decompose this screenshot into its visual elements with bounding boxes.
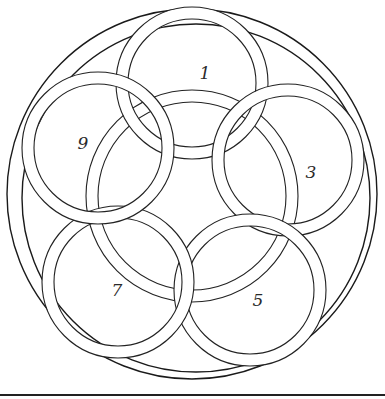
ring-1 [116,7,268,159]
rings [22,7,364,366]
interlaced-rings-diagram [0,0,385,399]
ring-label-1: 1 [200,65,211,82]
ring-label-3: 3 [306,164,317,181]
ring-label-5: 5 [253,292,264,309]
baseline-rule [0,394,385,396]
ring-label-9: 9 [78,135,89,152]
ring-label-7: 7 [112,282,123,299]
